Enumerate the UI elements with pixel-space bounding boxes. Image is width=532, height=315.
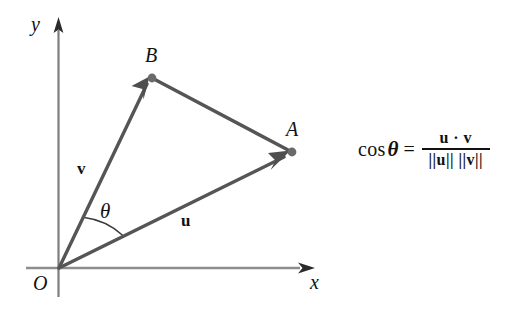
formula-cos-text: cos <box>358 138 388 161</box>
point-a-label: A <box>286 119 298 139</box>
point-a-dot <box>288 148 297 157</box>
vector-u-label: u <box>181 212 190 229</box>
formula-fraction: u · v ||u|| ||v|| <box>422 129 490 169</box>
point-b-label: B <box>145 45 157 65</box>
y-axis-label: y <box>31 14 40 34</box>
vector-angle-figure: y x O B A v u θ cos θ = u · v ||u|| ||v|… <box>0 0 532 315</box>
formula-denominator: ||u|| ||v|| <box>426 150 485 169</box>
formula-numerator: u · v <box>437 129 474 148</box>
formula-equals-sign: = <box>398 138 421 161</box>
point-b-dot <box>148 74 157 83</box>
axes-group <box>26 17 315 297</box>
vector-v-group <box>59 77 150 269</box>
vector-u-shaft <box>59 157 284 268</box>
x-axis-label: x <box>310 272 319 292</box>
angle-theta-label: θ <box>100 201 110 222</box>
formula-theta-symbol: θ <box>388 137 399 162</box>
vector-v-label: v <box>77 160 86 177</box>
vector-u-arrowhead <box>268 151 291 171</box>
vector-u-group <box>59 151 291 269</box>
origin-label: O <box>33 273 47 293</box>
vector-v-shaft <box>59 84 147 268</box>
cosine-formula: cos θ = u · v ||u|| ||v|| <box>358 129 490 169</box>
segment-ba <box>152 78 290 151</box>
